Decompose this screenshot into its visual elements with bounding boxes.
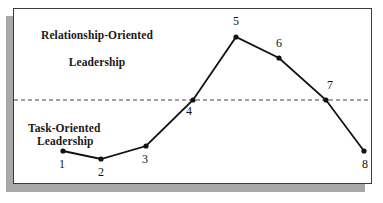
task-label-line1: Task-Oriented <box>28 122 100 134</box>
data-point-label-8: 8 <box>362 158 368 170</box>
data-point-label-7: 7 <box>327 79 333 91</box>
data-point-label-5: 5 <box>233 15 239 27</box>
data-point-marker-6 <box>276 55 281 60</box>
data-point-marker-7 <box>323 97 328 102</box>
data-point-marker-8 <box>361 148 366 153</box>
data-point-label-1: 1 <box>59 158 65 170</box>
relationship-oriented-zone-label: Relationship-Oriented Leadership <box>27 15 167 69</box>
data-point-label-2: 2 <box>98 166 104 178</box>
data-point-label-3: 3 <box>142 153 148 165</box>
data-point-marker-4 <box>190 97 195 102</box>
figure-container: Relationship-Oriented Leadership Task-Or… <box>0 0 383 203</box>
relationship-label-line1: Relationship-Oriented <box>41 29 153 41</box>
task-label-line2: Leadership <box>28 135 168 149</box>
relationship-label-line2: Leadership <box>69 56 126 68</box>
chart-frame: Relationship-Oriented Leadership Task-Or… <box>13 8 372 184</box>
data-point-marker-5 <box>233 34 238 39</box>
data-point-label-4: 4 <box>186 105 192 117</box>
data-point-label-6: 6 <box>276 37 282 49</box>
